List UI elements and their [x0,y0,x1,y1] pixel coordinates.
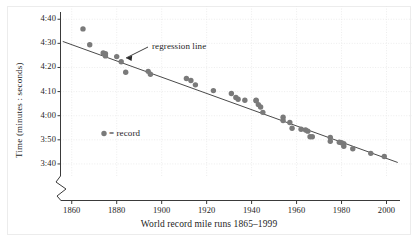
x-tick-label: 1960 [275,205,319,215]
annotation-leader-arrow [126,47,148,61]
y-tick-label: 3:40 [14,158,56,168]
y-tick-label: 4:30 [14,37,56,47]
regression-line-annotation: regression line [152,41,206,51]
x-axis-title: World record mile runs 1865–1999 [0,219,418,229]
data-points [80,26,387,159]
y-tick-label: 4:40 [14,13,56,23]
x-tick-label: 1940 [230,205,274,215]
x-tick-label: 1900 [140,205,184,215]
y-tick-label: 4:20 [14,61,56,71]
x-axis-ticks [72,201,387,205]
y-tick-label: 3:50 [14,134,56,144]
legend-label: = record [109,128,140,138]
x-tick-label: 1880 [95,205,139,215]
legend-marker [101,131,106,136]
gridlines [61,6,413,176]
x-tick-label: 1920 [185,205,229,215]
y-tick-label: 4:00 [14,110,56,120]
y-tick-label: 4:10 [14,86,56,96]
x-tick-label: 1980 [320,205,364,215]
y-axis-break-icon [56,176,66,200]
x-tick-label: 1860 [50,205,94,215]
chart-page: Time (minutes : seconds) World record mi… [0,0,418,242]
regression-line [63,41,398,162]
axis-spines [56,12,400,201]
x-tick-label: 2000 [365,205,409,215]
